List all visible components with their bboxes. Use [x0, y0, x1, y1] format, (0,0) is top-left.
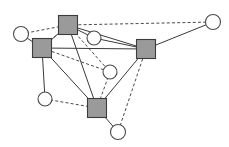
- graph-node-square-s1[interactable]: [59, 16, 78, 35]
- graph-edge-s1-s3: [68, 25, 146, 49]
- graph-edge-s2-s3: [42, 48, 146, 49]
- graph-node-circle-c2[interactable]: [206, 15, 221, 30]
- network-graph-figure: [0, 0, 229, 147]
- graph-node-square-s4[interactable]: [88, 99, 107, 118]
- graph-node-circle-c1[interactable]: [14, 27, 29, 42]
- graph-node-square-s3[interactable]: [137, 40, 156, 59]
- graph-node-square-s2[interactable]: [33, 39, 52, 58]
- graph-node-circle-c4[interactable]: [103, 65, 117, 79]
- graph-node-circle-c5[interactable]: [38, 92, 52, 106]
- graph-edge-s3-c2: [146, 22, 213, 49]
- graph-node-circle-c3[interactable]: [87, 31, 101, 45]
- graph-edge-s1-c2: [68, 22, 213, 25]
- node-layer: [14, 15, 221, 140]
- graph-node-circle-c6[interactable]: [111, 125, 126, 140]
- graph-edge-s3-c6: [118, 49, 146, 132]
- graph-canvas: [0, 0, 229, 147]
